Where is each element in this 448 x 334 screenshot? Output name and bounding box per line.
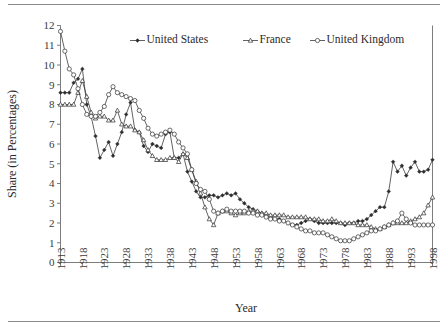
x-tick-label: 1953	[230, 247, 242, 270]
marker-filled-diamond	[229, 193, 233, 197]
marker-open-circle	[338, 239, 342, 243]
marker-open-circle	[203, 189, 207, 193]
marker-filled-diamond	[151, 142, 155, 146]
series-line	[61, 81, 433, 229]
marker-open-circle	[198, 187, 202, 191]
x-tick-label: 1958	[252, 247, 264, 270]
marker-open-triangle	[422, 211, 426, 215]
marker-filled-diamond	[159, 146, 163, 150]
marker-open-circle	[220, 209, 224, 213]
marker-open-circle	[80, 102, 84, 106]
marker-open-triangle	[115, 108, 119, 112]
marker-open-circle	[334, 237, 338, 241]
marker-open-circle	[190, 168, 194, 172]
x-tick-label: 1948	[208, 247, 220, 270]
x-tick-label: 1973	[317, 247, 329, 270]
x-axis-tick-labels: 1913191819231928193319381943194819531958…	[55, 247, 439, 270]
marker-open-circle	[185, 152, 189, 156]
marker-filled-diamond	[67, 91, 71, 95]
marker-filled-diamond	[404, 174, 408, 178]
marker-filled-diamond	[212, 193, 216, 197]
marker-open-circle	[404, 217, 408, 221]
marker-open-circle	[225, 207, 229, 211]
marker-open-circle	[343, 239, 347, 243]
marker-open-circle	[378, 227, 382, 231]
marker-open-triangle	[330, 217, 334, 221]
marker-open-triangle	[120, 122, 124, 126]
x-tick-label: 1978	[339, 247, 351, 270]
x-tick-label: 1918	[77, 247, 89, 270]
marker-filled-diamond	[155, 144, 159, 148]
marker-open-circle	[325, 233, 329, 237]
marker-open-circle	[212, 209, 216, 213]
marker-filled-diamond	[387, 190, 391, 194]
x-tick-label: 1943	[186, 247, 198, 270]
marker-open-circle	[115, 91, 119, 95]
marker-open-circle	[308, 229, 312, 233]
marker-filled-diamond	[216, 195, 220, 199]
marker-open-circle	[277, 219, 281, 223]
y-tick-label: 12	[44, 19, 55, 31]
marker-open-circle	[58, 29, 62, 33]
marker-open-triangle	[207, 217, 211, 221]
x-tick-label: 1933	[142, 247, 154, 270]
x-tick-label: 1988	[383, 247, 395, 270]
legend-item-united-states: United States	[130, 33, 209, 45]
y-tick-label: 9	[49, 79, 55, 91]
marker-open-circle	[395, 219, 399, 223]
y-tick-label: 1	[49, 237, 55, 249]
marker-open-circle	[303, 229, 307, 233]
marker-open-circle	[315, 38, 319, 42]
x-tick-label: 1938	[164, 247, 176, 270]
marker-open-circle	[216, 211, 220, 215]
marker-open-circle	[247, 211, 251, 215]
marker-filled-diamond	[382, 205, 386, 209]
marker-filled-diamond	[111, 154, 115, 158]
marker-open-circle	[76, 87, 80, 91]
marker-open-circle	[120, 93, 124, 97]
marker-filled-diamond	[120, 130, 124, 134]
marker-open-circle	[312, 231, 316, 235]
marker-open-circle	[299, 227, 303, 231]
legend-item-united-kingdom: United Kingdom	[310, 33, 404, 46]
marker-filled-diamond	[417, 170, 421, 174]
marker-open-circle	[391, 221, 395, 225]
marker-open-circle	[142, 116, 146, 120]
marker-open-circle	[242, 209, 246, 213]
marker-filled-diamond	[190, 180, 194, 184]
marker-open-circle	[290, 223, 294, 227]
series-united-states	[59, 67, 435, 227]
marker-filled-diamond	[221, 193, 225, 197]
marker-open-circle	[93, 114, 97, 118]
x-tick-label: 1913	[55, 247, 67, 270]
y-tick-label: 5	[49, 158, 55, 170]
marker-filled-diamond	[426, 168, 430, 172]
marker-filled-diamond	[304, 219, 308, 223]
marker-open-circle	[163, 130, 167, 134]
x-tick-label: 1993	[405, 247, 417, 270]
marker-open-circle	[124, 95, 128, 99]
data-series-group	[58, 29, 434, 243]
marker-filled-diamond	[94, 134, 98, 138]
marker-open-circle	[382, 225, 386, 229]
legend-item-france: France	[243, 33, 291, 45]
marker-filled-diamond	[115, 142, 119, 146]
marker-filled-diamond	[431, 158, 435, 162]
marker-open-circle	[330, 235, 334, 239]
marker-filled-diamond	[136, 39, 140, 43]
marker-open-triangle	[141, 138, 145, 142]
y-tick-label: 11	[44, 39, 55, 51]
series-line	[61, 31, 433, 240]
marker-open-circle	[264, 215, 268, 219]
y-tick-label: 7	[49, 118, 55, 130]
marker-open-circle	[260, 213, 264, 217]
marker-open-circle	[321, 231, 325, 235]
marker-filled-diamond	[299, 221, 303, 225]
marker-filled-diamond	[391, 160, 395, 164]
marker-open-circle	[155, 134, 159, 138]
x-tick-label: 1998	[427, 247, 439, 270]
marker-open-circle	[146, 126, 150, 130]
marker-filled-diamond	[203, 195, 207, 199]
y-tick-label: 10	[44, 59, 56, 71]
marker-open-circle	[159, 132, 163, 136]
